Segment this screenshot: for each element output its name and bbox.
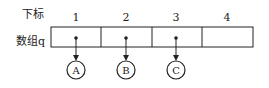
index-label-4: 4 [224,11,231,24]
node-label-c: C [172,65,180,76]
array-pointer-diagram: 1 2 3 4 A B C [0,0,269,88]
node-label-a: A [71,65,80,76]
index-label-1: 1 [73,11,80,24]
index-label-2: 2 [123,11,130,24]
node-label-b: B [122,65,129,76]
index-label-3: 3 [173,11,180,24]
